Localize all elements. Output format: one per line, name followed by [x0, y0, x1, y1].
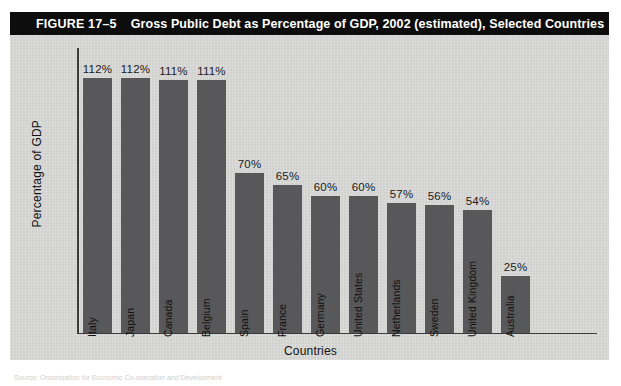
bar-value-label: 60% [342, 181, 385, 193]
figure-title: Gross Public Debt as Percentage of GDP, … [131, 17, 605, 31]
bar [197, 80, 226, 333]
figure-title-bar: FIGURE 17–5 Gross Public Debt as Percent… [10, 12, 609, 35]
y-axis-label: Percentage of GDP [30, 120, 44, 227]
bar-value-label: 54% [456, 195, 499, 207]
bar-value-label: 70% [228, 158, 271, 170]
bar-category-text: Germany [314, 293, 326, 337]
bar-category-text: Netherlands [390, 279, 402, 337]
bar-value-label: 25% [494, 261, 537, 273]
bar-series: 112%Italy112%Japan111%Canada111%Belgium7… [77, 48, 597, 333]
bar-category-text: Sweden [428, 298, 440, 337]
x-axis-label: Countries [0, 344, 621, 358]
bar-category-text: Belgium [200, 298, 212, 337]
bar [121, 78, 150, 333]
bar-category-text: Canada [162, 300, 174, 337]
bar-value-label: 60% [304, 181, 347, 193]
bar-value-label: 111% [152, 65, 195, 77]
bar-value-label: 112% [114, 63, 157, 75]
bar-category-text: Japan [124, 308, 136, 337]
bar-category-text: France [276, 304, 288, 337]
source-note: Source: Organisation for Economic Co-ope… [14, 374, 574, 380]
figure-container: FIGURE 17–5 Gross Public Debt as Percent… [0, 0, 621, 386]
bar-category-text: Spain [238, 310, 250, 337]
bar-value-label: 65% [266, 170, 309, 182]
bar-value-label: 56% [418, 190, 461, 202]
bar-value-label: 112% [76, 63, 119, 75]
bar-category-text: Australia [504, 295, 516, 337]
bar [83, 78, 112, 333]
plot-area: 112%Italy112%Japan111%Canada111%Belgium7… [77, 48, 597, 334]
bar-category-text: United Kingdom [466, 261, 478, 337]
figure-number: FIGURE 17–5 [36, 17, 117, 31]
bar-value-label: 57% [380, 188, 423, 200]
bar-category-text: United States [352, 273, 364, 337]
bar-value-label: 111% [190, 65, 233, 77]
bar-category-text: Italy [86, 317, 98, 337]
bar [159, 80, 188, 333]
